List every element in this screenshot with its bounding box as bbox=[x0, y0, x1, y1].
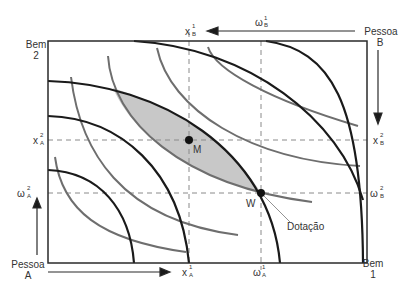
svg-text:1: 1 bbox=[189, 264, 193, 270]
svg-text:A: A bbox=[189, 272, 193, 278]
svg-text:2: 2 bbox=[40, 132, 44, 138]
point-w-marker bbox=[257, 189, 265, 197]
label-omegaB2: ω 2 B bbox=[370, 185, 384, 199]
svg-text:1: 1 bbox=[192, 23, 196, 29]
label-xB2: x 2 B bbox=[373, 132, 384, 146]
bem2-label: Bem bbox=[26, 39, 47, 50]
label-xA2: x 2 A bbox=[33, 132, 44, 146]
label-xB1: x 1 B bbox=[185, 23, 196, 37]
svg-text:B: B bbox=[192, 31, 196, 37]
pessoa-a-letter: A bbox=[25, 270, 32, 281]
bem1-label: Bem bbox=[363, 258, 384, 269]
label-omegaA1: ω 1 A bbox=[253, 264, 266, 278]
dotacao-label: Dotação bbox=[287, 221, 325, 232]
arrow-left-icon bbox=[207, 27, 218, 35]
arrow-right-icon bbox=[160, 268, 170, 276]
svg-text:2: 2 bbox=[380, 132, 384, 138]
edgeworth-box-diagram: Bem 2 Bem 1 Pessoa A Pessoa B x 1 B ω 1 … bbox=[0, 0, 406, 298]
indifference-curve-a5 bbox=[208, 47, 358, 126]
svg-text:1: 1 bbox=[262, 264, 266, 270]
label-omegaA2: ω 2 A bbox=[17, 185, 31, 199]
label-omegaB1: ω 1 B bbox=[255, 15, 268, 28]
bem1-number: 1 bbox=[370, 269, 376, 280]
svg-text:ω: ω bbox=[17, 188, 25, 199]
svg-text:x: x bbox=[185, 26, 190, 37]
svg-text:A: A bbox=[27, 193, 31, 199]
svg-text:1: 1 bbox=[264, 15, 268, 21]
indifference-curve-b3 bbox=[48, 81, 280, 263]
pessoa-b-label: Pessoa bbox=[364, 26, 398, 37]
svg-text:2: 2 bbox=[380, 185, 384, 191]
arrow-down-icon bbox=[374, 113, 382, 124]
svg-text:ω: ω bbox=[370, 188, 378, 199]
indifference-curve-a1 bbox=[55, 157, 186, 252]
svg-text:B: B bbox=[264, 22, 268, 28]
pessoa-a-label: Pessoa bbox=[11, 259, 45, 270]
svg-text:x: x bbox=[182, 267, 187, 278]
svg-text:A: A bbox=[40, 140, 44, 146]
svg-text:B: B bbox=[380, 193, 384, 199]
svg-text:A: A bbox=[262, 272, 266, 278]
arrow-up-icon bbox=[33, 198, 41, 208]
svg-text:ω: ω bbox=[255, 17, 263, 28]
point-w-label: W bbox=[246, 198, 256, 209]
indifference-curve-b1 bbox=[48, 170, 134, 263]
svg-text:2: 2 bbox=[27, 185, 31, 191]
point-m-marker bbox=[185, 136, 193, 144]
indifference-curve-a3 bbox=[108, 56, 312, 202]
pessoa-b-letter: B bbox=[377, 37, 384, 48]
point-m-label: M bbox=[193, 144, 201, 155]
svg-text:x: x bbox=[373, 135, 378, 146]
svg-text:B: B bbox=[380, 140, 384, 146]
label-xA1: x 1 A bbox=[182, 264, 193, 278]
svg-text:ω: ω bbox=[253, 267, 261, 278]
bem2-number: 2 bbox=[33, 50, 39, 61]
svg-text:x: x bbox=[33, 135, 38, 146]
